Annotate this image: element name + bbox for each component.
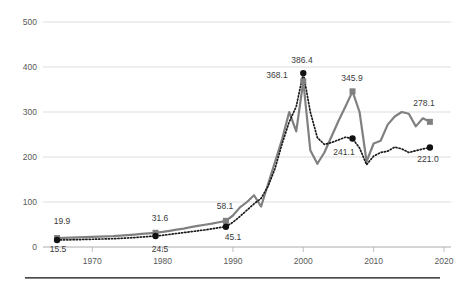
data-point-label: 345.9: [341, 73, 363, 83]
data-point-label: 31.6: [152, 213, 169, 223]
x-axis: [43, 247, 451, 252]
data-point-label: 386.4: [291, 55, 313, 65]
y-axis-tick-label: 100: [23, 197, 37, 207]
x-axis-tick-label: 2010: [364, 256, 383, 266]
y-axis-tick-label: 500: [23, 17, 37, 27]
marker-square: [350, 88, 356, 94]
x-axis-tick-label: 2020: [435, 256, 454, 266]
data-point-label: 15.5: [50, 244, 67, 254]
marker-circle: [427, 144, 433, 150]
series-line-dotted-black-series: [57, 73, 430, 240]
y-axis-tick-label: 300: [23, 107, 37, 117]
footer-rule: [25, 277, 440, 279]
x-axis-tick-label: 1970: [83, 256, 102, 266]
marker-circle: [54, 237, 60, 243]
y-axis-tick-label: 200: [23, 152, 37, 162]
y-axis-tick-label: 0: [32, 242, 37, 252]
x-axis-tick-label: 1980: [153, 256, 172, 266]
gridlines: [43, 22, 451, 247]
data-point-label: 241.1: [333, 147, 355, 157]
data-point-label: 368.1: [266, 70, 288, 80]
marker-circle: [223, 224, 229, 230]
line-chart: 0100200300400500 19701980199020002010202…: [0, 0, 466, 287]
y-axis-tick-label: 400: [23, 62, 37, 72]
data-point-labels: 19.915.531.624.558.145.1386.4368.1345.92…: [50, 55, 439, 254]
series-line-solid-gray-series: [57, 81, 430, 238]
data-point-label: 24.5: [152, 244, 169, 254]
marker-square: [223, 218, 229, 224]
data-series: [57, 73, 430, 240]
marker-square: [427, 119, 433, 125]
marker-square: [300, 78, 306, 84]
marker-circle: [349, 135, 355, 141]
marker-circle: [300, 70, 306, 76]
data-point-label: 278.1: [413, 98, 435, 108]
x-axis-tick-label: 2000: [294, 256, 313, 266]
data-point-label: 58.1: [217, 201, 234, 211]
marker-circle: [152, 233, 158, 239]
data-point-label: 19.9: [54, 216, 71, 226]
y-axis-tick-labels: 0100200300400500: [23, 17, 37, 252]
data-point-markers: [54, 70, 433, 243]
data-point-label: 221.0: [417, 154, 439, 164]
x-axis-tick-labels: 197019801990200020102020: [83, 256, 454, 266]
data-point-label: 45.1: [225, 232, 242, 242]
x-axis-tick-label: 1990: [223, 256, 242, 266]
chart-container: 0100200300400500 19701980199020002010202…: [0, 0, 466, 287]
